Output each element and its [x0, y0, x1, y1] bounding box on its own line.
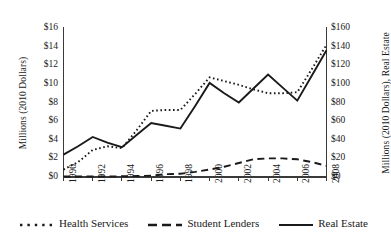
series-line-student-lenders	[64, 158, 327, 176]
chart-legend: Health ServicesStudent LendersReal Estat…	[0, 213, 388, 233]
legend-swatch-dotted-icon	[20, 219, 54, 227]
axis-lines	[64, 27, 327, 177]
legend-label: Student Lenders	[187, 217, 259, 229]
legend-swatch-solid-icon	[279, 219, 313, 227]
legend-swatch-dashed-icon	[148, 219, 182, 227]
legend-item-student-lenders[interactable]: Student Lenders	[148, 217, 259, 229]
legend-label: Real Estate	[318, 217, 368, 229]
legend-item-health-services[interactable]: Health Services	[20, 217, 128, 229]
series-line-real-estate	[64, 50, 327, 154]
data-series-group	[64, 45, 327, 177]
legend-item-real-estate[interactable]: Real Estate	[279, 217, 368, 229]
legend-label: Health Services	[59, 217, 128, 229]
